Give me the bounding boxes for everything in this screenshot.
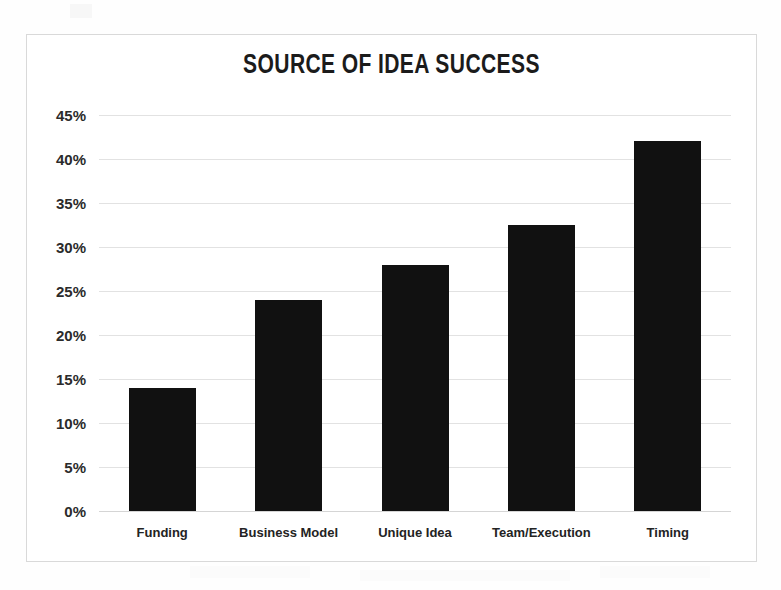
y-axis-tick-label: 25% [56, 283, 86, 300]
scan-artifact [360, 570, 570, 581]
x-axis-tick-label: Unique Idea [378, 525, 452, 540]
scan-artifact [600, 566, 710, 578]
x-axis-tick-label: Funding [137, 525, 188, 540]
y-axis-tick-label: 40% [56, 151, 86, 168]
y-axis-tick-label: 10% [56, 415, 86, 432]
scan-artifact [190, 566, 310, 578]
y-axis-tick-label: 35% [56, 195, 86, 212]
bar-series: FundingBusiness ModelUnique IdeaTeam/Exe… [99, 115, 731, 511]
x-axis-tick-label: Business Model [239, 525, 338, 540]
bar [129, 388, 196, 511]
x-axis-tick-label: Team/Execution [492, 525, 591, 540]
y-axis-tick-label: 30% [56, 239, 86, 256]
chart-frame: SOURCE OF IDEA SUCCESS 45%40%35%30%25%20… [26, 34, 757, 562]
y-axis-tick-label: 5% [64, 459, 86, 476]
y-axis-tick-label: 20% [56, 327, 86, 344]
bar [508, 225, 575, 511]
chart-page: SOURCE OF IDEA SUCCESS 45%40%35%30%25%20… [0, 0, 781, 590]
gridline [99, 511, 731, 512]
bar [382, 265, 449, 511]
chart-title: SOURCE OF IDEA SUCCESS [107, 49, 676, 80]
x-axis-tick-label: Timing [647, 525, 689, 540]
y-axis-tick-label: 15% [56, 371, 86, 388]
plot-area: 45%40%35%30%25%20%15%10%5%0% FundingBusi… [99, 115, 731, 511]
y-axis-tick-label: 0% [64, 503, 86, 520]
bar [255, 300, 322, 511]
scan-artifact [70, 4, 92, 18]
y-axis-tick-label: 45% [56, 107, 86, 124]
bar [634, 141, 701, 511]
